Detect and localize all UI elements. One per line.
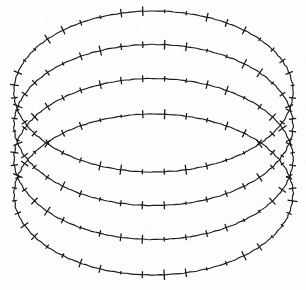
figure-canvas: [0, 0, 306, 290]
tick-mark: [62, 62, 64, 66]
tick-mark: [279, 187, 286, 192]
tick-mark: [280, 59, 286, 63]
tick-mark: [242, 251, 246, 260]
ellipse-coil-diagram: [0, 0, 306, 290]
tick-mark: [99, 230, 101, 236]
tick-mark: [186, 79, 187, 83]
tick-mark: [288, 200, 298, 201]
tick-mark: [44, 207, 50, 216]
ellipse-turn: [14, 44, 294, 205]
tick-mark: [206, 163, 208, 170]
tick-mark: [207, 49, 208, 53]
tick-mark: [11, 97, 18, 98]
tick-mark: [45, 35, 51, 43]
tick-mark: [289, 165, 296, 166]
tick-mark: [185, 235, 186, 241]
tick-mark: [186, 42, 187, 51]
tick-mark: [257, 243, 262, 250]
tick-mark: [186, 113, 187, 120]
tick-mark: [11, 118, 17, 119]
tick-mark: [185, 269, 186, 278]
tick-mark: [206, 230, 208, 237]
tick-mark: [80, 226, 81, 230]
tick-mark: [225, 261, 227, 266]
tick-mark: [226, 55, 227, 59]
tick-mark: [120, 200, 121, 206]
tick-mark: [121, 43, 122, 50]
tick-mark: [10, 152, 18, 153]
tick-mark: [121, 77, 122, 85]
tick-mark: [186, 11, 187, 15]
tick-mark: [289, 131, 296, 132]
tick-mark: [291, 85, 295, 86]
tick-mark: [280, 92, 286, 96]
tick-mark: [289, 97, 296, 98]
tick-mark: [121, 9, 122, 18]
tick-mark: [21, 222, 29, 227]
tick-mark: [289, 188, 297, 189]
tick-mark: [45, 103, 50, 110]
tick-mark: [11, 165, 18, 166]
tick-mark: [99, 197, 100, 201]
ellipse-layer: [14, 11, 294, 275]
tick-mark: [242, 59, 247, 68]
tick-mark: [207, 118, 208, 123]
tick-mark: [10, 84, 19, 85]
tick-mark: [12, 200, 17, 201]
tick-mark: [243, 219, 245, 222]
tick-mark: [226, 159, 227, 162]
ellipse-turn: [14, 78, 294, 239]
tick-mark: [206, 267, 207, 270]
tick-mark: [46, 70, 50, 76]
tick-mark: [120, 233, 121, 241]
ellipse-turn: [14, 114, 294, 275]
tick-mark: [100, 118, 101, 122]
tick-mark: [290, 153, 295, 154]
tick-mark: [120, 165, 121, 175]
tick-mark: [12, 188, 17, 189]
tick-mark: [206, 197, 207, 203]
tick-mark: [60, 182, 65, 191]
tick-mark: [257, 69, 263, 78]
tick-mark: [281, 224, 284, 226]
tick-mark: [289, 118, 296, 119]
tick-mark: [100, 15, 101, 19]
ellipse-turn: [14, 11, 294, 172]
tick-mark: [257, 173, 262, 181]
tick-mark: [185, 165, 186, 175]
